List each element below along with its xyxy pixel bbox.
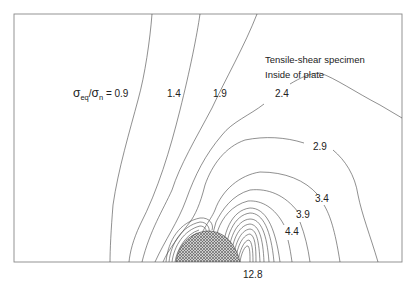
contour-3.9-right: [300, 222, 310, 262]
contour-label-1.9: 1.9: [213, 88, 227, 99]
contour-3.4-right: [324, 205, 340, 262]
contour-label-1.4: 1.4: [167, 88, 181, 99]
contour-4.4-right: [288, 240, 292, 262]
title-line-1: Tensile-shear specimen: [265, 54, 365, 65]
quantity-label: σeq/σn = 0.9: [73, 86, 129, 102]
contour-2.9-right: [333, 150, 378, 262]
contour-1.9: [142, 14, 257, 262]
contour-0.9: [110, 14, 152, 262]
stress-contour-diagram: Tensile-shear specimen Inside of plate σ…: [0, 0, 414, 283]
plot-frame: [14, 14, 402, 262]
contour-label-3.4: 3.4: [315, 193, 329, 204]
contour-lines: [110, 14, 402, 270]
contour-label-3.9: 3.9: [296, 209, 310, 220]
contour-label-2.4: 2.4: [275, 88, 289, 99]
contour-label-12.8: 12.8: [243, 269, 263, 280]
contour-label-4.4: 4.4: [285, 226, 299, 237]
contour-label-2.9: 2.9: [313, 141, 327, 152]
contour-1.4: [129, 14, 200, 262]
title-line-2: Inside of plate: [265, 69, 324, 80]
weld-nugget: [176, 231, 240, 262]
